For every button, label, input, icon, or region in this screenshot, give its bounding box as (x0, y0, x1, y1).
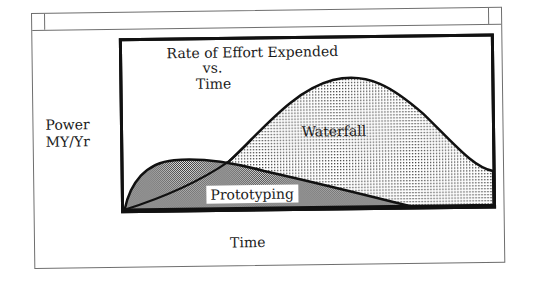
x-axis-label: Time (230, 234, 266, 250)
chart-title-line-1: Rate of Effort Expended (166, 43, 338, 61)
document-window: Power MY/Yr Rate of Effort Expended v (31, 7, 505, 269)
chart-title-line-2: vs. (202, 60, 223, 76)
chart-title-line-3: Time (196, 75, 232, 91)
effort-chart: Rate of Effort Expended vs. Time Waterfa… (32, 8, 504, 268)
waterfall-label: Waterfall (301, 123, 366, 140)
prototyping-label: Prototyping (210, 186, 294, 203)
